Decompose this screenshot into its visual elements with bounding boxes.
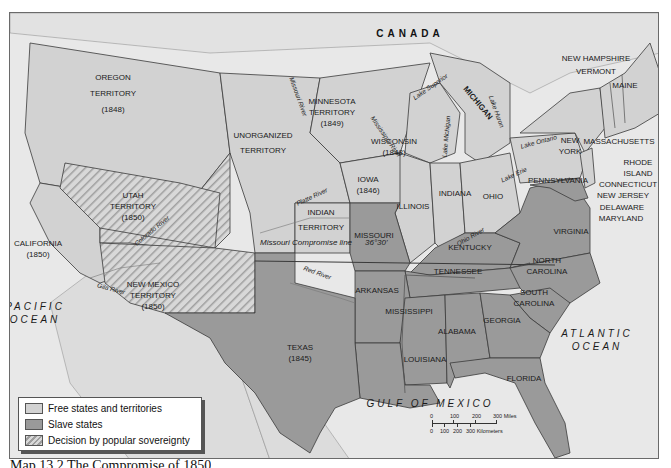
scale-bar: 0 100 200 300 Miles 0 100 200 300 Kilome…: [430, 413, 520, 447]
region-label-virginia: VIRGINIA: [553, 226, 588, 237]
region-label-alabama: ALABAMA: [438, 326, 476, 337]
region-label-rhode-island: RHODEISLAND: [624, 157, 653, 179]
region-label-maine: MAINE: [612, 80, 637, 91]
region-label-maryland: MARYLAND: [599, 213, 643, 224]
ocean-label-atlantic: ATLANTIC OCEAN: [561, 327, 633, 353]
region-label-florida: FLORIDA: [507, 373, 542, 384]
region-label-louisiana: LOUISIANA: [404, 354, 447, 365]
free-swatch-icon: [25, 403, 43, 414]
region-label-south-carolina: SOUTHCAROLINA: [514, 287, 555, 309]
hatch-swatch-icon: [25, 435, 43, 446]
region-label-delaware: DELAWARE: [600, 202, 644, 213]
region-label-kentucky: KENTUCKY: [448, 242, 492, 253]
region-label-pennsylvania: PENNSYLVANIA: [528, 175, 588, 186]
legend-item-slave: Slave states: [25, 417, 102, 431]
region-label-new-mexico: NEW MEXICOTERRITORY(1850): [127, 279, 179, 312]
compromise-line-label: Missouri Compromise line: [260, 238, 352, 247]
region-label-illinois: ILLINOIS: [397, 201, 430, 212]
region-label-unorganized: UNORGANIZEDTERRITORY: [233, 130, 292, 156]
region-label-oregon: OREGONTERRITORY(1848): [90, 72, 136, 115]
ocean-label-gulf: GULF OF MEXICO: [366, 397, 493, 410]
region-label-connecticut: CONNECTICUT: [599, 179, 657, 190]
region-label-georgia: GEORGIA: [483, 315, 520, 326]
region-label-arkansas: ARKANSAS: [355, 285, 399, 296]
region-label-tennessee: TENNESSEE: [434, 266, 482, 277]
region-label-indiana: INDIANA: [439, 188, 471, 199]
map-legend: Free states and territories Slave states…: [18, 397, 202, 451]
region-label-iowa: IOWA(1846): [356, 174, 379, 196]
region-label-california: CALIFORNIA(1850): [14, 238, 62, 260]
map-frame: CANADA MEXICO PACIFIC OCEAN ATLANTIC OCE…: [9, 12, 659, 459]
region-label-mississippi: MISSISSIPPI: [385, 306, 433, 317]
legend-item-free: Free states and territories: [25, 401, 162, 415]
region-label-new-hampshire: NEW HAMPSHIRE: [562, 53, 630, 64]
region-label-north-carolina: NORTHCAROLINA: [527, 255, 568, 277]
country-label-canada: CANADA: [376, 28, 443, 39]
region-label-massachusetts: MASSACHUSETTS: [583, 136, 654, 147]
legend-item-popular: Decision by popular sovereignty: [25, 433, 190, 447]
region-label-new-jersey: NEW JERSEY: [597, 190, 649, 201]
slave-swatch-icon: [25, 419, 43, 430]
region-label-ohio: OHIO: [483, 191, 503, 202]
region-label-vermont: VERMONT: [576, 66, 616, 77]
region-label-minnesota: MINNESOTATERRITORY(1849): [309, 96, 356, 129]
ocean-label-pacific: PACIFIC OCEAN: [9, 300, 65, 326]
region-label-texas: TEXAS(1845): [287, 342, 313, 364]
compromise-line-latitude: 36°30': [365, 238, 388, 247]
region-label-new-york: NEWYORK: [559, 135, 582, 157]
region-label-utah: UTAHTERRITORY(1850): [110, 190, 156, 223]
region-label-indian: INDIANTERRITORY: [298, 207, 344, 233]
map-caption: Map 13.2 The Compromise of 1850: [10, 459, 211, 468]
